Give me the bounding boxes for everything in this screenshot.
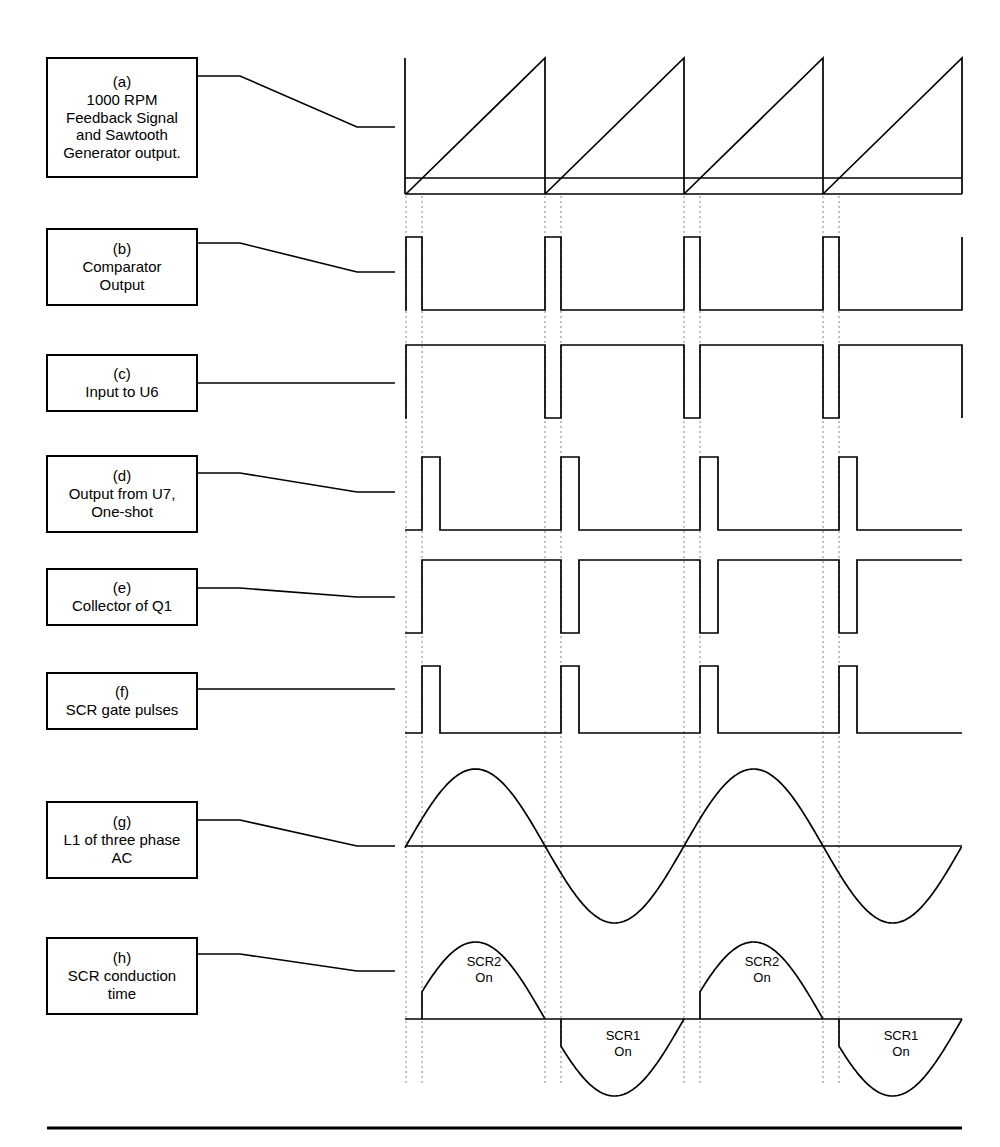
signal-label-box-h: (h)SCR conduction time (46, 937, 198, 1015)
leader-line-1 (198, 243, 395, 272)
waveform-annotations-group: SCR2OnSCR1OnSCR2OnSCR1On (467, 954, 919, 1059)
conduction-annotation-2: SCR1 (606, 1028, 641, 1043)
leader-line-7 (198, 954, 395, 971)
signal-tag: (b) (113, 240, 131, 258)
signal-tag: (g) (113, 813, 131, 831)
conduction-annotation-6: SCR1 (884, 1028, 919, 1043)
leader-lines-group (198, 76, 395, 971)
conduction-annotation-5: On (753, 970, 770, 985)
signal-tag: (f) (115, 683, 129, 701)
signal-description: Input to U6 (85, 383, 158, 401)
trace-c-notched-train (405, 345, 962, 418)
conduction-annotation-0: SCR2 (467, 954, 502, 969)
trace-h-conduction-hump-0 (422, 942, 545, 1019)
leader-line-4 (198, 588, 395, 597)
trace-d-pulse-train (405, 457, 962, 530)
signal-description: Output from U7, One-shot (69, 485, 176, 520)
signal-description: 1000 RPM Feedback Signal and Sawtooth Ge… (63, 91, 181, 162)
conduction-annotation-1: On (475, 970, 492, 985)
timing-diagram-figure: (a)1000 RPM Feedback Signal and Sawtooth… (0, 0, 1000, 1147)
trace-a-sawtooth-ramp-1 (545, 58, 684, 194)
signal-tag: (c) (113, 365, 131, 383)
signal-description: SCR gate pulses (66, 701, 179, 719)
signal-description: L1 of three phase AC (64, 831, 181, 866)
conduction-annotation-4: SCR2 (745, 954, 780, 969)
signal-label-box-b: (b)Comparator Output (46, 228, 198, 306)
signal-label-box-c: (c)Input to U6 (46, 354, 198, 412)
trace-g-sine-wave (405, 769, 962, 923)
conduction-annotation-3: On (614, 1044, 631, 1059)
waveform-traces-group (405, 58, 962, 1096)
trace-h-conduction-hump-3 (839, 1019, 962, 1096)
signal-tag: (h) (113, 949, 131, 967)
leader-line-3 (198, 473, 395, 492)
signal-description: Collector of Q1 (72, 597, 172, 615)
signal-tag: (d) (113, 467, 131, 485)
reference-dotted-lines-group (406, 196, 839, 1085)
conduction-annotation-7: On (892, 1044, 909, 1059)
signal-label-box-a: (a)1000 RPM Feedback Signal and Sawtooth… (46, 57, 198, 178)
trace-a-sawtooth-ramp-3 (823, 58, 962, 194)
signal-label-box-f: (f)SCR gate pulses (46, 672, 198, 730)
signal-label-box-d: (d)Output from U7, One-shot (46, 455, 198, 533)
trace-b-pulse-train (405, 237, 962, 310)
signal-label-box-e: (e)Collector of Q1 (46, 568, 198, 626)
signal-label-box-g: (g)L1 of three phase AC (46, 801, 198, 879)
trace-f-pulse-train (405, 666, 962, 733)
trace-a-sawtooth-ramp-0 (406, 58, 545, 194)
signal-description: Comparator Output (82, 258, 161, 293)
trace-a-sawtooth-ramp-2 (684, 58, 823, 194)
leader-line-6 (198, 820, 395, 846)
leader-line-0 (198, 76, 395, 127)
signal-description: SCR conduction time (68, 967, 176, 1002)
trace-h-conduction-hump-2 (700, 942, 823, 1019)
trace-e-notched-train (405, 560, 962, 633)
trace-h-conduction-hump-1 (561, 1019, 684, 1096)
signal-tag: (a) (113, 73, 131, 91)
signal-tag: (e) (113, 579, 131, 597)
